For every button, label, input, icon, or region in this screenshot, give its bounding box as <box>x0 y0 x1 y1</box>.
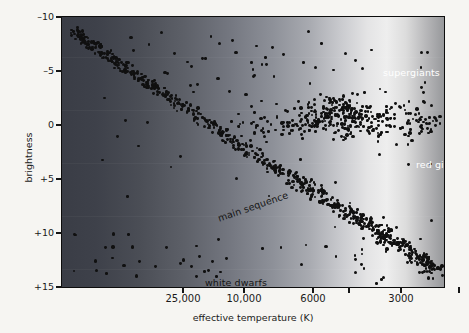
star-point <box>189 103 192 106</box>
y-axis-tick-label: +15 <box>14 281 54 292</box>
star-point <box>396 237 399 240</box>
star-point <box>349 100 352 103</box>
star-point <box>309 197 312 200</box>
star-point <box>201 57 204 60</box>
star-point <box>217 238 220 241</box>
star-point <box>211 260 214 263</box>
star-point <box>216 77 219 80</box>
star-point <box>382 236 385 239</box>
star-point <box>273 75 276 78</box>
star-point <box>332 69 335 72</box>
star-point <box>351 135 354 138</box>
star-point <box>292 174 295 177</box>
star-point <box>423 101 426 104</box>
y-axis-tick <box>56 286 62 288</box>
star-point <box>414 113 417 116</box>
star-point <box>131 64 134 67</box>
star-point <box>439 122 442 125</box>
star-point <box>339 100 342 103</box>
star-point <box>111 257 114 260</box>
star-point <box>426 127 429 130</box>
star-point <box>148 43 151 46</box>
star-point <box>234 51 237 54</box>
star-point <box>320 112 323 115</box>
star-point <box>254 152 257 155</box>
star-point <box>272 160 275 163</box>
y-axis-tick-label: –5 <box>14 65 54 76</box>
x-axis-tick-label: 6000 <box>273 293 353 304</box>
star-point <box>124 119 127 122</box>
star-point <box>226 128 229 131</box>
star-point <box>206 120 209 123</box>
star-point <box>100 45 103 48</box>
star-point <box>361 67 364 70</box>
star-point <box>386 224 389 227</box>
star-point <box>380 224 383 227</box>
star-point <box>388 124 391 127</box>
star-point <box>303 130 306 133</box>
star-point <box>377 120 380 123</box>
star-point <box>94 52 97 55</box>
star-point <box>185 101 188 104</box>
star-point <box>424 81 427 84</box>
star-point <box>112 232 115 235</box>
star-point <box>265 63 268 66</box>
star-point <box>419 238 422 241</box>
star-point <box>368 106 371 109</box>
star-point <box>347 214 350 217</box>
star-point <box>441 274 444 277</box>
star-point <box>250 61 253 64</box>
star-point <box>153 79 156 82</box>
star-point <box>361 118 364 121</box>
star-point <box>370 216 373 219</box>
star-point <box>314 183 317 186</box>
star-point <box>193 117 196 120</box>
star-point <box>261 152 264 155</box>
star-point <box>165 246 168 249</box>
star-point <box>249 144 252 147</box>
star-point <box>377 140 380 143</box>
star-point <box>403 104 406 107</box>
star-point <box>361 248 364 251</box>
star-point <box>170 104 173 107</box>
star-point <box>420 116 423 119</box>
star-point <box>381 120 384 123</box>
star-point <box>166 93 169 96</box>
star-point <box>418 112 421 115</box>
star-point <box>383 241 386 244</box>
star-point <box>301 189 304 192</box>
star-point <box>354 258 357 261</box>
star-point <box>402 127 405 130</box>
star-point <box>318 200 321 203</box>
star-point <box>371 228 374 231</box>
star-point <box>370 111 373 114</box>
star-point <box>265 141 268 144</box>
x-axis-tick-label: 3000 <box>361 293 441 304</box>
star-point <box>427 276 430 279</box>
star-point <box>281 172 284 175</box>
star-point <box>76 28 79 31</box>
star-point <box>320 42 323 45</box>
x-axis-title: effective temperature (K) <box>62 312 444 323</box>
star-point <box>210 35 213 38</box>
star-point <box>403 249 406 252</box>
star-point <box>179 155 182 158</box>
star-point <box>374 232 377 235</box>
star-point <box>103 97 106 100</box>
star-point <box>366 120 369 123</box>
star-point <box>380 278 383 281</box>
star-point <box>378 153 381 156</box>
star-point <box>101 159 104 162</box>
star-point <box>189 84 192 87</box>
y-axis-tick <box>56 178 62 180</box>
star-point <box>261 63 264 66</box>
star-point <box>208 124 211 127</box>
star-point <box>308 129 311 132</box>
star-point <box>299 158 302 161</box>
star-point <box>384 91 387 94</box>
star-point <box>307 30 310 33</box>
star-point <box>132 49 135 52</box>
star-point <box>393 241 396 244</box>
star-point <box>70 34 73 37</box>
star-point <box>325 128 328 131</box>
